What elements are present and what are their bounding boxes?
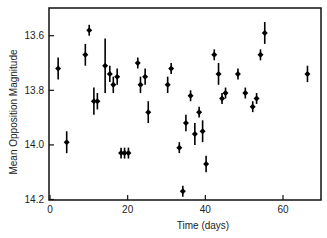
y-tick-label: 14.0 xyxy=(25,139,45,150)
data-point xyxy=(135,58,141,69)
diamond-marker xyxy=(114,74,120,80)
plot-frame xyxy=(49,8,321,200)
x-tick-label: 60 xyxy=(277,204,289,215)
data-point xyxy=(211,49,217,60)
diamond-marker xyxy=(203,161,209,167)
diamond-marker xyxy=(257,52,263,58)
x-axis-label: Time (days) xyxy=(177,220,229,231)
data-point xyxy=(145,101,151,123)
data-point xyxy=(110,77,116,93)
diamond-marker xyxy=(180,188,186,194)
diamond-marker xyxy=(176,145,182,151)
diamond-marker xyxy=(94,98,100,104)
data-point xyxy=(304,66,310,82)
diamond-marker xyxy=(254,95,260,101)
diamond-marker xyxy=(168,65,174,71)
diamond-marker xyxy=(242,90,248,96)
diamond-marker xyxy=(145,109,151,115)
data-point xyxy=(192,123,198,145)
diamond-marker xyxy=(235,71,241,77)
diamond-marker xyxy=(102,63,108,69)
diamond-marker xyxy=(110,82,116,88)
data-point xyxy=(125,148,131,159)
diamond-marker xyxy=(137,82,143,88)
data-point xyxy=(176,142,182,153)
data-point xyxy=(82,44,88,66)
data-point xyxy=(142,68,148,84)
data-point xyxy=(216,63,222,85)
y-tick-label: 13.6 xyxy=(25,30,45,41)
x-tick-label: 20 xyxy=(122,204,134,215)
data-point xyxy=(203,156,209,172)
diamond-marker xyxy=(196,109,202,115)
diamond-marker xyxy=(223,90,229,96)
diamond-marker xyxy=(82,52,88,58)
data-point xyxy=(250,101,256,112)
diamond-marker xyxy=(86,27,92,33)
data-point xyxy=(183,115,189,131)
diamond-marker xyxy=(135,60,141,66)
x-tick-label: 40 xyxy=(200,204,212,215)
data-point xyxy=(223,88,229,99)
data-point xyxy=(55,58,61,80)
data-point xyxy=(219,93,225,104)
diamond-marker xyxy=(262,30,268,36)
scatter-chart: 0204060 13.613.814.014.2 Time (days) Mea… xyxy=(0,0,327,238)
data-point xyxy=(254,93,260,104)
diamond-marker xyxy=(125,150,131,156)
y-axis-label: Mean Opposition Magnitude xyxy=(8,49,19,175)
diamond-marker xyxy=(55,65,61,71)
data-point xyxy=(257,49,263,60)
x-tick-label: 0 xyxy=(47,204,53,215)
diamond-marker xyxy=(219,95,225,101)
diamond-marker xyxy=(107,71,113,77)
data-points xyxy=(55,22,310,197)
diamond-marker xyxy=(304,71,310,77)
diamond-marker xyxy=(250,104,256,110)
diamond-marker xyxy=(142,74,148,80)
y-tick-label: 13.8 xyxy=(25,85,45,96)
data-point xyxy=(196,107,202,118)
x-axis: 0204060 xyxy=(47,195,289,215)
diamond-marker xyxy=(200,128,206,134)
data-point xyxy=(137,77,143,93)
data-point xyxy=(188,90,194,101)
diamond-marker xyxy=(183,120,189,126)
diamond-marker xyxy=(211,52,217,58)
data-point xyxy=(94,93,100,109)
data-point xyxy=(107,66,113,82)
data-point xyxy=(242,88,248,99)
data-point xyxy=(235,68,241,79)
data-point xyxy=(168,63,174,74)
y-tick-label: 14.2 xyxy=(25,194,45,205)
data-point xyxy=(114,68,120,84)
diamond-marker xyxy=(165,82,171,88)
diamond-marker xyxy=(64,139,70,145)
data-point xyxy=(200,120,206,142)
data-point xyxy=(86,25,92,36)
diamond-marker xyxy=(188,93,194,99)
data-point xyxy=(165,77,171,93)
data-point xyxy=(102,38,108,93)
diamond-marker xyxy=(216,71,222,77)
data-point xyxy=(262,22,268,44)
diamond-marker xyxy=(192,131,198,137)
data-point xyxy=(64,131,70,153)
data-point xyxy=(180,186,186,197)
